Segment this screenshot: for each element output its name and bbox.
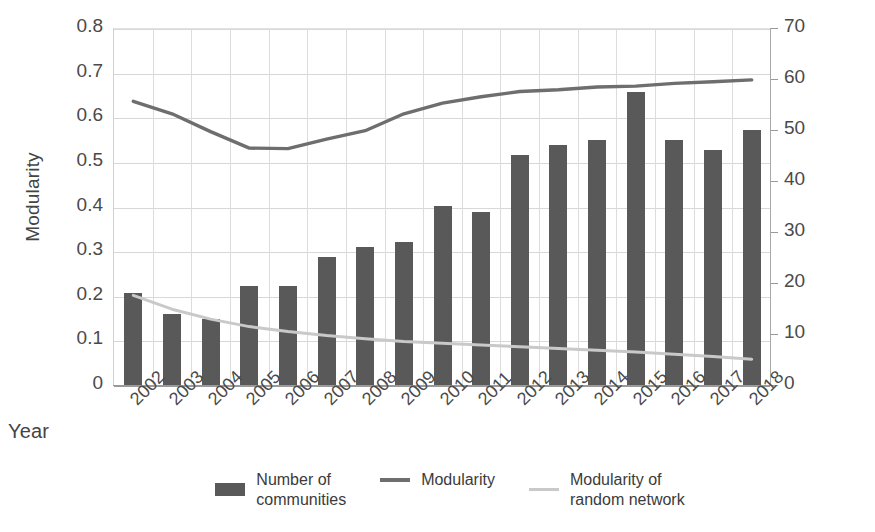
- y-axis-right-tick-mark: [771, 79, 778, 80]
- y-axis-left-tick-label: 0.1: [33, 327, 103, 349]
- legend-item[interactable]: Modularity: [380, 470, 495, 490]
- legend-label: Number ofcommunities: [256, 470, 346, 509]
- y-axis-left-tick-label: 0.4: [33, 194, 103, 216]
- y-axis-right-tick-mark: [771, 334, 778, 335]
- y-axis-right-tick-mark: [771, 181, 778, 182]
- legend-bar-swatch-icon: [215, 483, 245, 496]
- line-modularity-of-random-network: [133, 295, 751, 359]
- y-axis-right-tick-mark: [771, 28, 778, 29]
- y-axis-left-tick-label: 0.7: [33, 60, 103, 82]
- y-axis-right-line: [770, 28, 771, 386]
- y-axis-right-tick-label: 70: [784, 15, 844, 37]
- y-axis-right-tick-mark: [771, 283, 778, 284]
- legend-label: Modularity ofrandom network: [570, 470, 685, 509]
- y-axis-right-tick-label: 10: [784, 321, 844, 343]
- legend-label-line: Modularity of: [570, 470, 685, 490]
- legend-label-line: random network: [570, 490, 685, 510]
- legend-label-line: Number of: [256, 470, 346, 490]
- line-modularity: [133, 80, 751, 149]
- chart-legend: Number ofcommunitiesModularityModularity…: [130, 470, 770, 522]
- legend-label: Modularity: [421, 470, 495, 490]
- y-axis-right-tick-label: 20: [784, 270, 844, 292]
- legend-item[interactable]: Number ofcommunities: [215, 470, 346, 509]
- y-axis-left-tick-label: 0.6: [33, 104, 103, 126]
- y-axis-left-tick-label: 0: [33, 372, 103, 394]
- y-axis-left-tick-label: 0.2: [33, 283, 103, 305]
- legend-line-swatch-icon: [380, 478, 410, 482]
- y-axis-right-tick-mark: [771, 232, 778, 233]
- y-axis-right-tick-label: 40: [784, 168, 844, 190]
- line-series-group: [114, 29, 771, 386]
- y-axis-right-tick-label: 30: [784, 219, 844, 241]
- legend-label-line: Modularity: [421, 470, 495, 490]
- modularity-communities-chart: Modularity Number of communities Year 00…: [0, 0, 875, 532]
- y-axis-left-tick-label: 0.5: [33, 149, 103, 171]
- x-axis-tick-labels: 2002200320042005200620072008200920102011…: [113, 389, 770, 459]
- legend-item[interactable]: Modularity ofrandom network: [529, 470, 685, 509]
- y-axis-right-tick-label: 50: [784, 117, 844, 139]
- y-axis-right-tick-label: 60: [784, 66, 844, 88]
- y-axis-left-tick-label: 0.3: [33, 238, 103, 260]
- y-axis-left-tick-label: 0.8: [33, 15, 103, 37]
- y-axis-right-tick-mark: [771, 130, 778, 131]
- x-axis-title: Year: [8, 420, 49, 443]
- plot-area: [113, 28, 770, 385]
- y-axis-right-tick-label: 0: [784, 372, 844, 394]
- legend-line-swatch-light-icon: [529, 488, 559, 491]
- legend-label-line: communities: [256, 490, 346, 510]
